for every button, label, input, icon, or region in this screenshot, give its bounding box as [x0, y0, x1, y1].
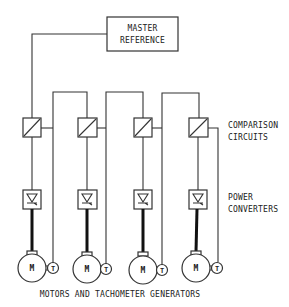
tachometer-2-label: T: [104, 266, 108, 274]
motor-4-label: M: [194, 264, 199, 273]
channel-1: M T: [18, 118, 59, 282]
power-converters-label-line1: POWER: [228, 193, 253, 202]
power-converters-label-line2: CONVERTERS: [228, 205, 278, 214]
tachometer-1-label: T: [51, 265, 55, 273]
reference-signal-line: [32, 34, 107, 118]
comparison-circuit-1: [23, 118, 41, 137]
power-converter-1: [23, 190, 41, 209]
power-converter-4: [189, 190, 207, 209]
master-reference-block: MASTER REFERENCE: [107, 17, 178, 51]
motor-4: M: [182, 251, 210, 282]
tachometer-1: T: [48, 263, 59, 274]
motor-1: M: [18, 251, 46, 282]
feedback-line-4: [208, 128, 218, 262]
comparison-circuits-label-line1: COMPARISON: [228, 121, 278, 130]
tachometer-3: T: [157, 265, 168, 276]
motor-2-label: M: [85, 265, 90, 274]
comparison-circuit-4: [189, 118, 208, 137]
tachometer-4: T: [212, 263, 223, 274]
channel-4: M T: [182, 118, 223, 282]
tachometer-4-label: T: [215, 265, 219, 273]
tachometer-2: T: [101, 264, 112, 275]
tachometer-3-label: T: [160, 267, 164, 275]
comparison-circuit-2: [78, 118, 97, 137]
motor-3-label: M: [141, 266, 146, 275]
master-reference-label-line2: REFERENCE: [120, 36, 165, 45]
motors-tachometers-caption: MOTORS AND TACHOMETER GENERATORS: [40, 290, 201, 299]
motor-1-label: M: [30, 264, 35, 273]
comparison-circuit-3: [134, 118, 152, 137]
power-converter-2: [78, 190, 97, 209]
motor-3: M: [129, 252, 157, 284]
master-reference-label-line1: MASTER: [127, 24, 157, 33]
comparison-circuits-label-line2: CIRCUITS: [228, 133, 268, 142]
power-converter-3: [134, 190, 152, 209]
motor-2: M: [73, 252, 101, 283]
drive-system-diagram: MASTER REFERENCE M T: [0, 0, 289, 307]
